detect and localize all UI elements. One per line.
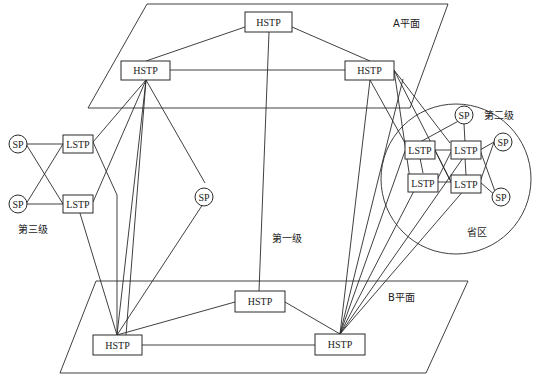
svg-text:HSTP: HSTP	[133, 65, 158, 76]
lstp-left-1: LSTP	[63, 135, 93, 153]
svg-text:SP: SP	[198, 192, 210, 203]
svg-text:SP: SP	[12, 199, 24, 210]
svg-text:SP: SP	[495, 192, 507, 203]
sp-left-2: SP	[9, 195, 27, 213]
signaling-network-diagram: HSTP HSTP HSTP HSTP HSTP HSTP LSTP LSTP …	[0, 0, 542, 382]
svg-text:HSTP: HSTP	[328, 339, 353, 350]
plane-a-label: A平面	[393, 18, 420, 29]
svg-text:SP: SP	[458, 110, 470, 121]
level-2-label: 第二级	[484, 109, 514, 121]
sp-province-top: SP	[455, 106, 473, 124]
sp-left-1: SP	[9, 135, 27, 153]
level-3-label: 第三级	[18, 223, 48, 235]
plane-b-label: B平面	[388, 292, 415, 303]
hstp-b-left: HSTP	[93, 335, 142, 355]
hstp-a-top: HSTP	[245, 12, 292, 32]
sp-province-right-1: SP	[494, 133, 512, 151]
svg-text:HSTP: HSTP	[357, 65, 382, 76]
sp-province-right-2: SP	[492, 188, 510, 206]
province-label: 省区	[467, 226, 487, 238]
svg-text:LSTP: LSTP	[454, 145, 478, 156]
svg-text:LSTP: LSTP	[454, 179, 478, 190]
lstp-province-1: LSTP	[405, 141, 435, 159]
lstp-province-4: LSTP	[451, 175, 481, 193]
svg-text:HSTP: HSTP	[105, 340, 130, 351]
svg-text:HSTP: HSTP	[256, 17, 281, 28]
svg-text:LSTP: LSTP	[411, 178, 435, 189]
svg-text:LSTP: LSTP	[408, 145, 432, 156]
svg-text:HSTP: HSTP	[248, 296, 273, 307]
lstp-left-2: LSTP	[63, 195, 93, 213]
level-1-label: 第一级	[272, 232, 302, 244]
hstp-a-left: HSTP	[121, 61, 170, 80]
svg-text:SP: SP	[497, 137, 509, 148]
sp-mid: SP	[195, 188, 213, 206]
svg-text:LSTP: LSTP	[66, 199, 90, 210]
hstp-b-mid: HSTP	[235, 291, 285, 312]
lstp-province-2: LSTP	[451, 141, 481, 159]
svg-text:LSTP: LSTP	[66, 139, 90, 150]
hstp-b-right: HSTP	[315, 334, 365, 355]
svg-text:SP: SP	[12, 139, 24, 150]
lstp-province-3: LSTP	[408, 174, 438, 192]
hstp-a-right: HSTP	[345, 61, 394, 80]
